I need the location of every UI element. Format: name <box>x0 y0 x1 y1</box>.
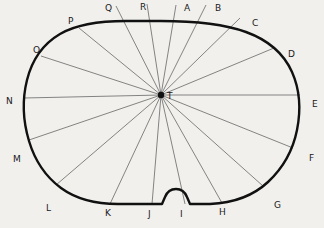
center-dot-icon <box>158 92 164 98</box>
ray-label-H: H <box>219 207 226 217</box>
diagram-background <box>0 0 324 228</box>
ray-label-J: J <box>147 209 151 219</box>
radial-diagram: T ABCDEFGHIJKLMNOPQR <box>0 0 324 228</box>
ray-label-O: O <box>33 45 40 55</box>
ray-label-D: D <box>288 49 295 59</box>
ray-label-N: N <box>6 96 13 106</box>
ray-label-L: L <box>46 203 51 213</box>
ray-label-R: R <box>140 2 146 12</box>
center-label-T: T <box>166 91 173 101</box>
ray-label-F: F <box>309 153 314 163</box>
ray-label-A: A <box>184 3 191 13</box>
ray-label-G: G <box>274 200 281 210</box>
ray-label-B: B <box>215 3 221 13</box>
ray-label-M: M <box>13 154 21 164</box>
ray-label-C: C <box>252 18 258 28</box>
ray-label-E: E <box>312 99 318 109</box>
ray-label-I: I <box>180 209 183 219</box>
ray-label-P: P <box>68 16 74 26</box>
ray-label-Q: Q <box>105 3 112 13</box>
